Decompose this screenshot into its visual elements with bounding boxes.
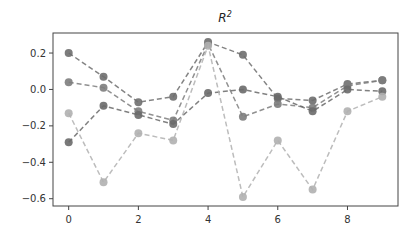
x-tick-label: 2 xyxy=(135,214,141,225)
chart-title-main: R xyxy=(218,11,226,25)
data-point xyxy=(309,186,317,194)
data-point xyxy=(134,129,142,137)
data-point xyxy=(239,193,247,201)
data-point xyxy=(204,89,212,97)
data-point xyxy=(169,93,177,101)
data-point xyxy=(65,78,73,86)
data-point xyxy=(378,93,386,101)
series-group xyxy=(65,38,387,201)
data-point xyxy=(274,93,282,101)
data-point xyxy=(169,136,177,144)
x-tick-label: 6 xyxy=(275,214,281,225)
data-point xyxy=(65,138,73,146)
data-point xyxy=(343,85,351,93)
data-point xyxy=(239,85,247,93)
x-tick-label: 8 xyxy=(344,214,350,225)
data-point xyxy=(204,42,212,50)
chart-title-superscript: 2 xyxy=(227,10,232,19)
series-series-2 xyxy=(65,40,387,124)
series-series-4 xyxy=(65,42,387,201)
x-axis: 02468 xyxy=(65,206,350,225)
data-point xyxy=(274,136,282,144)
data-point xyxy=(134,98,142,106)
y-tick-label: −0.4 xyxy=(22,157,46,168)
y-tick-label: 0.0 xyxy=(30,84,46,95)
series-series-3 xyxy=(65,85,387,146)
r-squared-chart: R2 0.20.0−0.2−0.4−0.6 02468 xyxy=(0,0,419,235)
data-point xyxy=(239,51,247,59)
series-line xyxy=(69,90,383,143)
y-tick-label: −0.2 xyxy=(22,120,46,131)
data-point xyxy=(239,113,247,121)
data-point xyxy=(100,178,108,186)
data-point xyxy=(169,120,177,128)
y-tick-label: 0.2 xyxy=(30,48,46,59)
data-point xyxy=(343,107,351,115)
data-point xyxy=(134,111,142,119)
data-point xyxy=(100,73,108,81)
data-point xyxy=(309,107,317,115)
x-tick-label: 0 xyxy=(65,214,71,225)
data-point xyxy=(100,102,108,110)
y-tick-label: −0.6 xyxy=(22,193,46,204)
x-tick-label: 4 xyxy=(205,214,211,225)
chart-title: R2 xyxy=(218,10,231,25)
series-line xyxy=(69,44,383,121)
data-point xyxy=(100,84,108,92)
data-point xyxy=(274,100,282,108)
data-point xyxy=(309,96,317,104)
series-line xyxy=(69,46,383,197)
y-axis: 0.20.0−0.2−0.4−0.6 xyxy=(22,48,53,205)
data-point xyxy=(378,76,386,84)
data-point xyxy=(65,49,73,57)
data-point xyxy=(65,109,73,117)
